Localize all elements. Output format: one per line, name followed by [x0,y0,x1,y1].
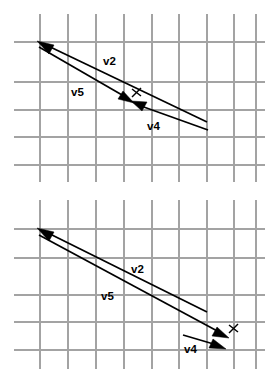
vector-diagram-top: v2 v5 v4 [14,14,265,182]
vector-label-v2-bottom: v2 [131,263,144,275]
vector-label-v5-top: v5 [71,86,84,98]
grid-top [14,14,265,182]
vector-v4-top [131,101,208,130]
vector-label-v4-bottom: v4 [184,343,197,355]
x-marker-top [132,88,141,97]
vector-v5-top [39,47,134,103]
vector-v4-bottom-arrowhead [209,339,226,349]
grid-bottom [14,200,265,369]
vector-label-v5-bottom: v5 [101,290,114,302]
vector-label-v2-top: v2 [103,55,116,67]
vector-diagram-bottom: v2 v5 v4 [14,200,265,369]
vector-v5-bottom-shaft [39,235,221,333]
vector-figure: v2 v5 v4 [0,0,272,381]
vector-label-v4-top: v4 [147,120,160,132]
vector-figure-canvas: v2 v5 v4 [0,0,272,381]
vector-v2-bottom [37,228,207,312]
